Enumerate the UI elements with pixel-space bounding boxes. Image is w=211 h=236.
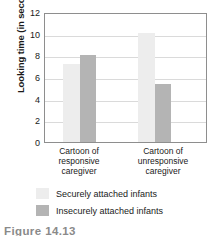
y-tick-4: 4 <box>10 96 40 105</box>
plot-inner <box>45 14 206 142</box>
legend-label-securely: Securely attached infants <box>56 189 157 199</box>
legend-swatch-insecurely-icon <box>36 205 49 216</box>
x-category-2-line3: caregiver <box>116 166 210 176</box>
gridline-8 <box>45 57 206 58</box>
bar-group2-securely <box>138 33 155 142</box>
x-category-1: Cartoon of responsive caregiver <box>36 146 122 177</box>
y-tick-6: 6 <box>10 74 40 83</box>
y-tick-8: 8 <box>10 52 40 61</box>
legend-label-insecurely: Insecurely attached infants <box>56 206 163 216</box>
x-category-1-line3: caregiver <box>36 166 122 176</box>
x-category-2-line1: Cartoon of <box>116 146 210 156</box>
x-category-2: Cartoon of unresponsive caregiver <box>116 146 210 177</box>
y-tick-12: 12 <box>10 9 40 18</box>
y-axis-tick-labels: 12 10 8 6 4 2 0 <box>8 13 40 143</box>
x-category-2-line2: unresponsive <box>116 156 210 166</box>
x-category-1-line2: responsive <box>36 156 122 166</box>
y-tick-10: 10 <box>10 31 40 40</box>
plot-area <box>44 13 207 143</box>
gridline-10 <box>45 36 206 37</box>
legend-item-securely: Securely attached infants <box>36 186 211 201</box>
legend-swatch-securely-icon <box>36 188 49 199</box>
x-axis-category-labels: Cartoon of responsive caregiver Cartoon … <box>44 146 207 180</box>
figure-caption: Figure 14.13 <box>4 225 204 236</box>
y-tick-2: 2 <box>10 117 40 126</box>
x-category-1-line1: Cartoon of <box>36 146 122 156</box>
bar-group2-insecurely <box>155 84 171 143</box>
bar-group1-securely <box>63 64 80 142</box>
bar-group1-insecurely <box>80 55 96 142</box>
legend-item-insecurely: Insecurely attached infants <box>36 203 211 218</box>
chart-legend: Securely attached infants Insecurely att… <box>36 186 211 220</box>
bar-chart-figure: Looking time (in seconds) 12 10 8 6 4 2 … <box>0 0 211 236</box>
